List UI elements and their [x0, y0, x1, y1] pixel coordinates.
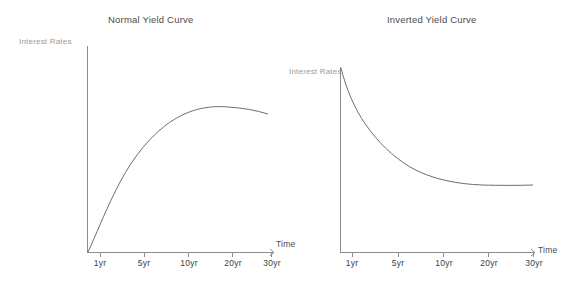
tick-label-20yr-inverted: 20yr [480, 258, 497, 268]
tick-label-10yr-inverted: 10yr [435, 258, 452, 268]
tick-label-1yr-normal: 1yr [94, 258, 106, 268]
chart-panel-inverted-yield-curve: Inverted Yield Curve Interest Rates 1yr … [286, 0, 572, 288]
tick-label-5yr-inverted: 5yr [392, 258, 404, 268]
tick-label-30yr-inverted: 30yr [525, 258, 542, 268]
chart-panel-normal-yield-curve: Normal Yield Curve Interest Rates 1yr 5y… [0, 0, 286, 288]
curve-inverted-yield [341, 68, 533, 185]
yield-curve-figure: Normal Yield Curve Interest Rates 1yr 5y… [0, 0, 572, 288]
tick-label-10yr-normal: 10yr [180, 258, 197, 268]
tick-label-20yr-normal: 20yr [224, 258, 241, 268]
x-axis-label-inverted: Time [538, 245, 557, 255]
tick-label-1yr-inverted: 1yr [346, 258, 358, 268]
tick-label-5yr-normal: 5yr [138, 258, 150, 268]
curve-normal-yield [88, 107, 268, 252]
tick-label-30yr-normal: 30yr [263, 258, 280, 268]
plot-area-normal [0, 0, 286, 288]
plot-area-inverted [286, 0, 572, 288]
